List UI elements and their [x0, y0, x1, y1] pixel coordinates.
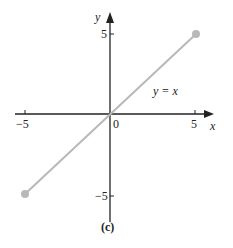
- curve-label: y = x: [153, 85, 178, 97]
- figure-caption: (c): [101, 221, 114, 233]
- x-tick-label-left: −5: [16, 118, 29, 130]
- endpoint-dot-bottom: [21, 190, 29, 198]
- x-axis-label: x: [210, 120, 215, 132]
- y-tick-label-bottom: −5: [95, 190, 108, 202]
- y-tick-label-top: 5: [101, 28, 107, 40]
- x-tick-label-right: 5: [191, 118, 197, 130]
- origin-label: 0: [113, 118, 119, 130]
- y-axis-arrow-icon: [106, 12, 114, 23]
- x-axis-arrow-icon: [204, 110, 214, 118]
- y-axis-label: y: [95, 11, 100, 23]
- endpoint-dot-top: [192, 30, 200, 38]
